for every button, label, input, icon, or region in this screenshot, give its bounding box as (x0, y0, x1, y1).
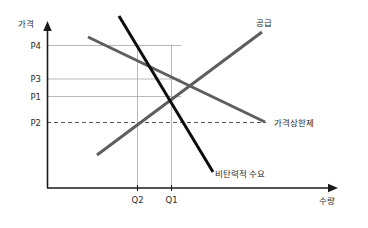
supply-curve (97, 32, 262, 155)
inelastic-demand-curve-label: 비탄력적 수요 (215, 169, 266, 179)
x-axis-title: 수량 (319, 196, 335, 206)
supply-curve-label: 공급 (256, 18, 272, 28)
y-axis-arrow-icon (43, 21, 51, 31)
price-ceiling-diagram: 가격 수량 P4 P3 P1 P2 Q2 Q1 공급 비탄력적 수요 가격상한제 (0, 0, 368, 228)
grid-lines (47, 46, 181, 189)
economics-chart-canvas: 가격 수량 P4 P3 P1 P2 Q2 Q1 공급 비탄력적 수요 가격상한제 (0, 0, 368, 228)
x-axis-arrow-icon (328, 184, 338, 192)
inelastic-demand-curve (119, 16, 213, 172)
axes (43, 21, 338, 192)
curves (88, 16, 265, 172)
y-tick-label-p1: P1 (30, 92, 41, 102)
x-tick-label-q1: Q1 (165, 195, 177, 205)
y-tick-label-p2: P2 (30, 118, 41, 128)
y-tick-label-p4: P4 (30, 41, 41, 51)
x-tick-label-q2: Q2 (131, 195, 143, 205)
y-tick-label-p3: P3 (30, 74, 41, 84)
y-axis-title: 가격 (18, 19, 34, 29)
price-ceiling-label: 가격상한제 (274, 118, 314, 128)
